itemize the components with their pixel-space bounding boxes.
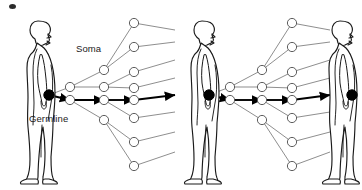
germline-edge (134, 95, 175, 100)
scan-artifact (9, 4, 16, 9)
soma-node (287, 113, 296, 122)
germline-zygote-gen1 (44, 90, 54, 100)
organism-generation-1 (20, 21, 57, 184)
soma-node (287, 83, 296, 92)
soma-edge (134, 23, 175, 30)
soma-node (287, 137, 296, 146)
soma-edge (292, 23, 330, 30)
soma-edge (262, 100, 292, 118)
soma-node (65, 82, 74, 91)
soma-node (99, 95, 108, 104)
soma-node (225, 82, 234, 91)
lineage-diagram-svg (0, 0, 362, 190)
top-left-speck (9, 4, 16, 9)
soma-node (129, 113, 138, 122)
germline-label: Germline (29, 113, 68, 124)
soma-node (257, 95, 266, 104)
soma-node (287, 67, 296, 76)
organism-generation-3 (322, 21, 359, 184)
soma-edge (292, 78, 330, 88)
soma-node (99, 115, 108, 124)
soma-edge (104, 47, 134, 70)
soma-node (129, 42, 138, 51)
germline-edge (292, 95, 330, 100)
soma-edge (262, 120, 292, 142)
soma-node (129, 67, 138, 76)
soma-node (129, 161, 138, 170)
soma-edge (262, 47, 292, 70)
soma-edge (292, 60, 330, 72)
soma-node (225, 95, 234, 104)
soma-edge (70, 70, 104, 87)
soma-node (287, 161, 296, 170)
diagram-canvas: Soma Germline (0, 0, 362, 190)
soma-node (129, 137, 138, 146)
soma-node (287, 95, 296, 104)
soma-edge (134, 132, 175, 142)
soma-edge (292, 112, 330, 118)
soma-node (129, 83, 138, 92)
soma-edge (134, 42, 175, 47)
soma-edge (134, 78, 175, 88)
soma-edge (134, 112, 175, 118)
soma-edge (70, 100, 104, 120)
soma-node (257, 65, 266, 74)
soma-node (287, 18, 296, 27)
organism-generation-2 (184, 21, 221, 184)
soma-edge (292, 42, 330, 47)
soma-edge (230, 100, 262, 120)
soma-node (129, 95, 138, 104)
soma-edge (230, 70, 262, 87)
soma-edge (104, 100, 134, 118)
soma-edge (292, 132, 330, 142)
soma-node (287, 42, 296, 51)
soma-node (99, 65, 108, 74)
soma-node (257, 115, 266, 124)
soma-edge (292, 152, 330, 166)
soma-node (129, 18, 138, 27)
soma-node (65, 95, 74, 104)
soma-edge (104, 120, 134, 142)
soma-node (99, 82, 108, 91)
cell-nodes-layer (65, 18, 296, 170)
soma-edge (134, 60, 175, 72)
germline-zygote-gen2 (204, 90, 214, 100)
soma-label: Soma (76, 43, 101, 54)
germline-zygote-gen3 (347, 90, 357, 100)
soma-node (257, 82, 266, 91)
soma-edge (134, 152, 175, 166)
